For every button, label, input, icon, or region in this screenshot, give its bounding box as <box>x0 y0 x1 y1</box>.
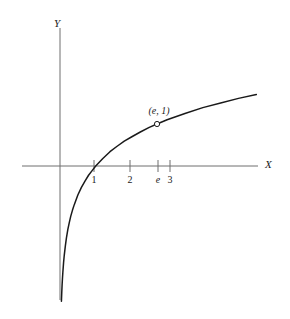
point-annotation-label: (e, 1) <box>148 106 169 116</box>
x-tick-label-2: 2 <box>128 175 133 185</box>
logarithm-graph-figure: Y X 1 2 e 3 (e, 1) <box>0 0 290 319</box>
x-tick-label-e: e <box>156 175 160 185</box>
point-marker-open-circle <box>154 121 159 126</box>
x-tick-label-3: 3 <box>168 175 173 185</box>
plot-canvas <box>0 0 290 319</box>
x-axis-label: X <box>265 159 272 170</box>
y-axis-label: Y <box>54 18 60 29</box>
x-tick-label-1: 1 <box>92 175 97 185</box>
